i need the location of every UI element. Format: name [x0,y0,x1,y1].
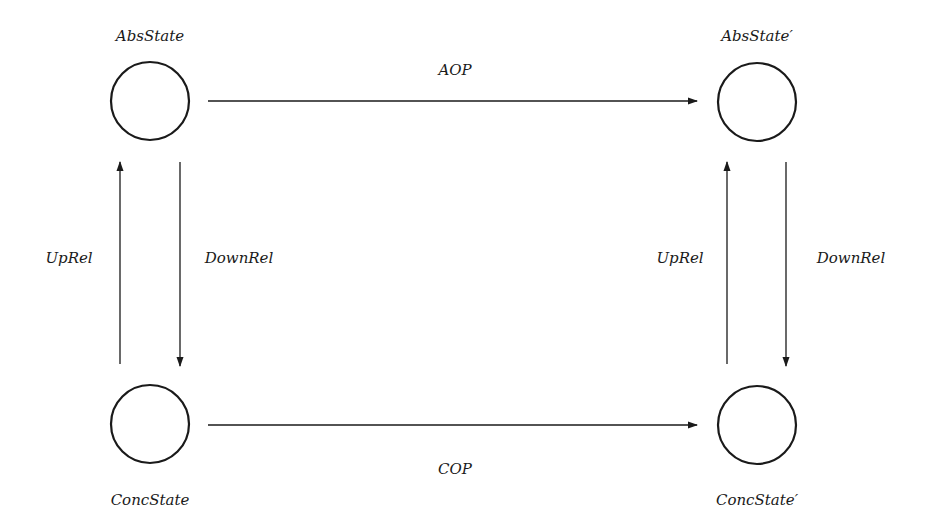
label-conc-state-prime: ConcState′ [716,491,798,509]
label-uprel-left: UpRel [45,249,92,267]
node-conc-state-prime [718,386,796,464]
label-abs-state-prime: AbsState′ [721,27,793,45]
label-cop: COP [438,460,472,478]
label-conc-state: ConcState [111,491,190,509]
label-uprel-right: UpRel [656,249,703,267]
label-downrel-right: DownRel [817,249,886,267]
commuting-diagram: AbsState AbsState′ ConcState ConcState′ … [0,0,931,531]
label-downrel-left: DownRel [205,249,274,267]
node-abs-state [111,62,189,140]
diagram-graphics [0,0,931,531]
label-aop: AOP [438,61,471,79]
node-conc-state [111,385,189,463]
label-abs-state: AbsState [116,27,184,45]
node-abs-state-prime [718,63,796,141]
